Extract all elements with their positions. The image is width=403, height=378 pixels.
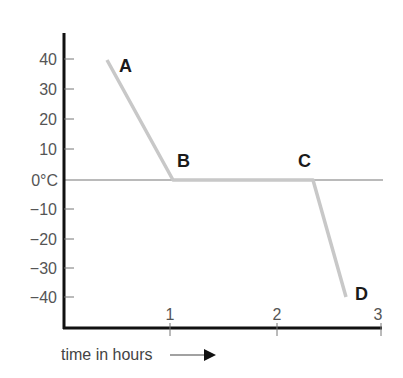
- arrow-right-icon: [204, 349, 216, 361]
- temperature-time-chart: 40 30 20 10 0°C −10 −20 −30 −40 1 2 3 A …: [0, 0, 403, 378]
- x-axis-label: time in hours: [61, 346, 153, 363]
- x-tick-label-2: 2: [273, 306, 282, 323]
- y-tick-label-10: 10: [39, 141, 57, 158]
- point-label-d: D: [355, 284, 368, 304]
- cooling-curve-line: [107, 60, 346, 297]
- y-tick-label-20: 20: [39, 111, 57, 128]
- y-tick-label-minus-40: −40: [30, 289, 57, 306]
- y-tick-label-30: 30: [39, 81, 57, 98]
- point-label-a: A: [119, 56, 132, 76]
- y-tick-label-minus-20: −20: [30, 231, 57, 248]
- y-tick-label-minus-10: −10: [30, 201, 57, 218]
- y-tick-label-minus-30: −30: [30, 260, 57, 277]
- x-tick-label-1: 1: [166, 306, 175, 323]
- y-tick-label-0: 0°C: [31, 172, 58, 189]
- y-tick-label-40: 40: [39, 51, 57, 68]
- point-label-b: B: [177, 151, 190, 171]
- x-tick-label-3: 3: [374, 306, 383, 323]
- point-label-c: C: [298, 151, 311, 171]
